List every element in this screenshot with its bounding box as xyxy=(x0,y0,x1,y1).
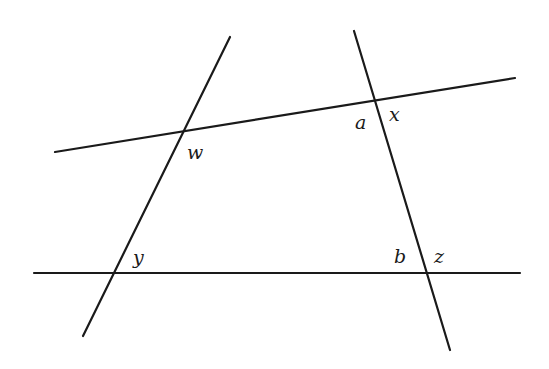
label-a: a xyxy=(355,111,366,133)
label-x: x xyxy=(389,103,400,125)
left-transversal xyxy=(83,37,230,336)
label-z: z xyxy=(433,245,445,267)
label-b: b xyxy=(394,245,406,267)
label-w: w xyxy=(187,141,203,163)
geometry-diagram: w a x y b z xyxy=(0,0,549,369)
upper-line xyxy=(55,78,515,152)
right-transversal xyxy=(354,31,450,350)
label-y: y xyxy=(132,246,144,268)
